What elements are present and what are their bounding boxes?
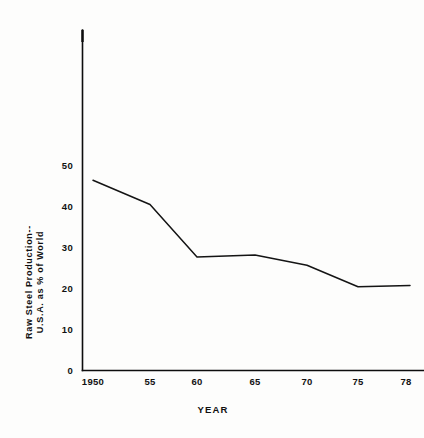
x-tick-label-60: 60 [191,376,202,387]
y-axis-title-line1: Raw Steel Production-- [24,225,34,339]
x-tick-label-75: 75 [352,376,364,387]
y-tick-label-0: 0 [67,365,73,376]
y-tick-label-10: 10 [62,324,73,335]
x-tick-label-1950: 1950 [82,376,104,387]
y-tick-label-50: 50 [62,160,73,171]
x-tick-label-78: 78 [400,376,411,387]
y-tick-label-20: 20 [62,283,73,294]
x-tick-label-70: 70 [301,376,312,387]
y-tick-label-30: 30 [62,242,73,253]
x-axis-title: YEAR [198,404,229,415]
x-tick-label-65: 65 [249,376,261,387]
chart-figure: 50 40 30 20 10 0 1950 55 60 65 70 75 78 … [0,0,424,438]
y-axis-title-line2: U.S.A. as % of World [35,231,45,333]
y-tick-label-40: 40 [62,201,73,212]
data-series-line [93,180,410,287]
line-chart-canvas: 50 40 30 20 10 0 1950 55 60 65 70 75 78 … [0,0,424,438]
x-tick-label-55: 55 [144,376,156,387]
